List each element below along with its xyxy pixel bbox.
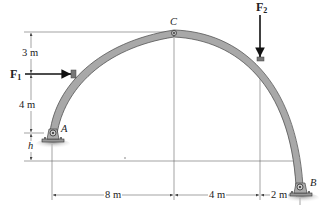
F1-label: F1 bbox=[9, 68, 22, 82]
F1-subscript: 1 bbox=[17, 73, 21, 82]
arch-right-segment bbox=[174, 30, 303, 186]
F2-load-plate bbox=[257, 57, 264, 61]
arch bbox=[50, 30, 303, 186]
F2-subscript: 2 bbox=[263, 6, 267, 15]
point-A-label: A bbox=[60, 124, 68, 135]
dim-horizontal-right: 2 m bbox=[270, 190, 288, 201]
F1-load-plate bbox=[71, 70, 76, 78]
point-C-label: C bbox=[169, 17, 178, 28]
F2-label: F2 bbox=[255, 1, 268, 15]
arch-diagram bbox=[0, 0, 322, 221]
dim-horizontal-left: 8 m bbox=[104, 190, 122, 201]
dim-vertical-top: 3 m bbox=[21, 48, 39, 59]
arch-left-segment bbox=[50, 30, 174, 134]
center-mark bbox=[124, 157, 126, 159]
dim-horizontal-middle: 4 m bbox=[208, 190, 226, 201]
dim-vertical-bottom: h bbox=[27, 141, 34, 152]
dim-vertical-middle: 4 m bbox=[18, 100, 36, 111]
point-B-label: B bbox=[309, 178, 317, 189]
pin-C bbox=[171, 30, 176, 35]
